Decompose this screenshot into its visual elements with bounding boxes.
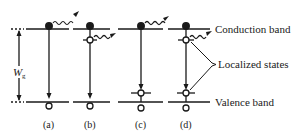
conduction-band-label: Conduction band <box>215 24 290 35</box>
gap-subscript: g <box>22 73 26 80</box>
localized-states-label: Localized states <box>218 59 289 70</box>
panel-label-c: (c) <box>135 120 146 130</box>
panel-a <box>46 11 79 109</box>
band-diagram: Conduction band Localized states Valence… <box>0 0 294 134</box>
panel-c <box>131 16 169 111</box>
panel-label-b: (b) <box>84 120 96 130</box>
panel-label-d: (d) <box>180 120 192 130</box>
panel-label-a: (a) <box>43 120 54 130</box>
localized-states-pointers <box>190 42 216 90</box>
gap-label: W <box>13 67 22 78</box>
valence-band-label: Valence band <box>215 97 274 108</box>
panel-d <box>177 23 212 111</box>
panel-b <box>83 23 116 109</box>
